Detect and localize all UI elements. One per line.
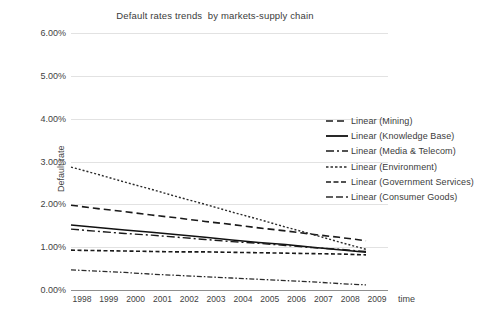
x-axis-tick-label: 2007 — [314, 294, 333, 304]
gridline — [71, 33, 388, 34]
chart-container: Default rates trends by markets-supply c… — [0, 0, 495, 326]
legend-item[interactable]: Linear (Government Services) — [326, 174, 495, 189]
legend-item-label: Linear (Mining) — [351, 116, 413, 126]
y-axis-tick-label: 6.00% — [4, 28, 66, 38]
gridline — [71, 76, 388, 77]
legend-line-swatch-icon — [326, 191, 348, 203]
x-axis-tick-label: 2006 — [287, 294, 306, 304]
gridline — [71, 247, 388, 248]
x-axis-tick-label: 2008 — [341, 294, 360, 304]
legend-line-swatch-icon — [326, 115, 348, 127]
legend-item[interactable]: Linear (Environment) — [326, 159, 495, 174]
y-axis-tick-label: 5.00% — [4, 71, 66, 81]
legend-item[interactable]: Linear (Mining) — [326, 113, 495, 128]
y-axis-tick-label: 1.00% — [4, 242, 66, 252]
x-axis-title: time — [398, 294, 415, 304]
legend-item[interactable]: Linear (Knowledge Base) — [326, 128, 495, 143]
legend-item-label: Linear (Environment) — [351, 162, 437, 172]
legend-item-label: Linear (Consumer Goods) — [351, 192, 457, 202]
x-axis-tick-label: 2002 — [180, 294, 199, 304]
y-axis-tick-label: 4.00% — [4, 114, 66, 124]
legend-item[interactable]: Linear (Consumer Goods) — [326, 189, 495, 204]
y-axis-title: Default rate — [56, 145, 66, 192]
legend-line-swatch-icon — [326, 161, 348, 173]
legend-line-swatch-icon — [326, 145, 348, 157]
legend-item-label: Linear (Knowledge Base) — [351, 131, 454, 141]
legend-item-label: Linear (Media & Telecom) — [351, 146, 456, 156]
x-axis-tick-label: 1999 — [99, 294, 118, 304]
chart-legend: Linear (Mining)Linear (Knowledge Base)Li… — [326, 113, 495, 205]
x-axis-tick-label: 2003 — [207, 294, 226, 304]
legend-line-swatch-icon — [326, 130, 348, 142]
x-axis-tick-label: 2000 — [126, 294, 145, 304]
x-axis-tick-label: 1998 — [73, 294, 92, 304]
x-axis-tick-labels: 1998199920002001200220032004200520062007… — [71, 294, 388, 310]
y-axis-tick-label: 2.00% — [4, 199, 66, 209]
x-axis-tick-label: 2004 — [233, 294, 252, 304]
x-axis-tick-label: 2001 — [153, 294, 172, 304]
x-axis-tick-label: 2009 — [368, 294, 387, 304]
x-axis-tick-label: 2005 — [260, 294, 279, 304]
legend-line-swatch-icon — [326, 176, 348, 188]
y-axis-tick-label: 0.00% — [4, 285, 66, 295]
legend-item-label: Linear (Government Services) — [351, 177, 474, 187]
legend-item[interactable]: Linear (Media & Telecom) — [326, 144, 495, 159]
x-axis-line — [71, 290, 388, 291]
